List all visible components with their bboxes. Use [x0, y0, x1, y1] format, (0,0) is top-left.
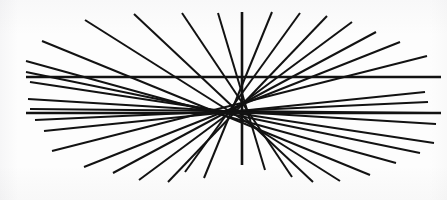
illusion-canvas — [0, 0, 447, 200]
optical-illusion-figure — [0, 0, 447, 200]
